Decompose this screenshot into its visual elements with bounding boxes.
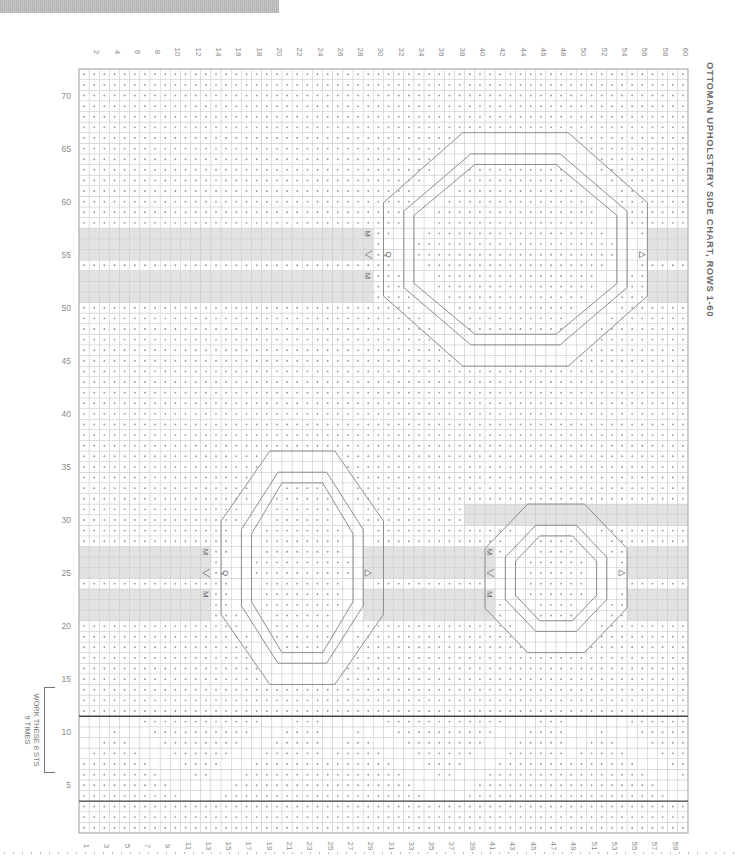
chart-cell [181, 568, 191, 579]
knit-dot [540, 657, 542, 659]
knit-dot [347, 105, 349, 107]
knit-dot [652, 158, 654, 160]
knit-dot [296, 360, 298, 362]
knit-dot [317, 710, 319, 712]
knit-dot [185, 116, 187, 118]
chart-cell [404, 239, 414, 250]
knit-dot [327, 413, 329, 415]
column-label-bottom: 53 [610, 842, 619, 851]
knit-dot [550, 402, 552, 404]
knit-dot [611, 84, 613, 86]
knit-dot [611, 540, 613, 542]
chart-cell [587, 727, 597, 738]
knit-dot [83, 455, 85, 457]
knit-dot [530, 317, 532, 319]
chart-cell [526, 154, 536, 165]
chart-cell [424, 207, 434, 218]
chart-cell [323, 249, 333, 260]
chart-cell [576, 175, 586, 186]
chart-cell [99, 281, 109, 292]
knit-dot [479, 668, 481, 670]
knit-dot [530, 179, 532, 181]
knit-dot [195, 137, 197, 139]
column-label-bottom: 35 [427, 842, 436, 851]
chart-cell [546, 133, 556, 144]
knit-dot [367, 455, 369, 457]
chart-cell [282, 271, 292, 282]
knit-dot [215, 752, 217, 754]
knit-dot [479, 583, 481, 585]
knit-dot [570, 572, 572, 574]
knit-dot [357, 402, 359, 404]
knit-dot [205, 742, 207, 744]
knit-dot [560, 763, 562, 765]
knit-dot [317, 222, 319, 224]
knit-dot [286, 699, 288, 701]
knit-dot [337, 763, 339, 765]
knit-dot [246, 169, 248, 171]
knit-dot [306, 169, 308, 171]
knit-dot [286, 583, 288, 585]
chart-cell [404, 600, 414, 611]
knit-dot [134, 370, 136, 372]
knit-dot [611, 742, 613, 744]
knit-dot [357, 816, 359, 818]
knit-dot [469, 116, 471, 118]
knit-dot [631, 625, 633, 627]
knit-dot [164, 126, 166, 128]
knit-dot [540, 233, 542, 235]
knit-dot [367, 370, 369, 372]
chart-cell [292, 653, 302, 664]
knit-dot [83, 116, 85, 118]
knit-dot [682, 264, 684, 266]
knit-dot [276, 742, 278, 744]
knit-dot [449, 243, 451, 245]
chart-cell [678, 271, 688, 282]
chart-cell [647, 547, 657, 558]
chart-cell [546, 621, 556, 632]
chart-cell [181, 547, 191, 558]
chart-cell [120, 271, 130, 282]
knit-dot [418, 742, 420, 744]
knit-dot [418, 179, 420, 181]
knit-dot [591, 795, 593, 797]
knit-dot [652, 424, 654, 426]
chart-cell [140, 281, 150, 292]
knit-dot [388, 148, 390, 150]
knit-dot [469, 254, 471, 256]
knit-dot [631, 487, 633, 489]
knit-dot [641, 307, 643, 309]
knit-dot [652, 498, 654, 500]
knit-dot [469, 211, 471, 213]
knit-dot [317, 381, 319, 383]
knit-dot [662, 646, 664, 648]
knit-dot [449, 105, 451, 107]
knit-dot [560, 402, 562, 404]
knit-dot [601, 392, 603, 394]
knit-dot [205, 699, 207, 701]
knit-dot [174, 477, 176, 479]
chart-cell [333, 462, 343, 473]
knit-dot [682, 721, 684, 723]
knit-dot [215, 583, 217, 585]
chart-cell [333, 663, 343, 674]
knit-dot [124, 179, 126, 181]
knit-dot [185, 73, 187, 75]
knit-dot [550, 105, 552, 107]
knit-dot [103, 540, 105, 542]
chart-cell [109, 568, 119, 579]
knit-dot [367, 339, 369, 341]
knit-dot [530, 243, 532, 245]
chart-cell [434, 154, 444, 165]
knit-dot [266, 201, 268, 203]
knit-dot [114, 636, 116, 638]
knit-dot [449, 657, 451, 659]
knit-dot [449, 636, 451, 638]
chart-cell [241, 578, 251, 589]
row-label: 45 [62, 356, 72, 366]
knit-dot [357, 413, 359, 415]
knit-dot [347, 328, 349, 330]
knit-dot [306, 95, 308, 97]
knit-dot [611, 752, 613, 754]
knit-dot [357, 678, 359, 680]
